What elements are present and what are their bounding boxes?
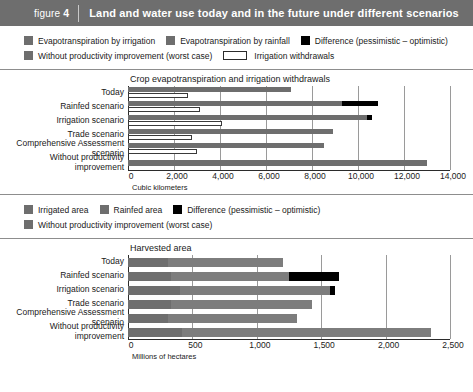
gridline [358,86,359,170]
gridline [192,255,193,339]
bar-segment-withdrawals [128,149,197,154]
plot-wrap-2: TodayRainfed scenarioIrrigation scenario… [0,255,473,339]
bar-segment-difference [342,101,378,107]
legend-swatch-gray-icon [24,51,33,60]
legend-swatch-gray-icon [24,36,33,45]
legend-top-row-2: Without productivity improvement (worst … [24,48,473,63]
x-tick-label: 2,500 [442,340,463,350]
x-tick-label: 2,000 [166,171,187,181]
bar-segment-irrigated [128,314,168,323]
bar-segment-irrigated [128,328,182,337]
x-tick-label: 6,000 [258,171,279,181]
legend-label: Without productivity improvement (worst … [38,51,212,61]
category-label: Irrigation scenario [56,116,124,126]
legend-item-evapotranspiration-irrigation: Evapotranspiration by irrigation [24,36,155,46]
legend-bottom-row-1: Irrigated area Rainfed area Difference (… [24,202,473,217]
x-tick-label: 14,000 [440,171,466,181]
figure-word: figure [34,8,60,19]
bar-segment-irrigated [128,258,168,267]
bar-segment-difference [330,286,335,295]
legend-swatch-hollow-icon [223,51,247,60]
x-tick-label: 1,500 [314,340,335,350]
gridline [386,255,387,339]
legend-label: Difference (pessimistic – optimistic) [315,36,448,46]
legend-swatch-black-icon [301,36,310,45]
gridline [257,255,258,339]
figure-title: Land and water use today and in the futu… [89,7,459,19]
legend-label: Irrigation withdrawals [254,51,334,61]
chart-panel-harvested-area: Harvested area TodayRainfed scenarioIrri… [0,239,473,363]
bar-segment-withdrawals [128,135,192,140]
bar-segment-irrigated [128,286,180,295]
legend-swatch-gray-icon [24,220,33,229]
bar-segment-main [128,115,367,121]
legend-label: Difference (pessimistic – optimistic) [187,205,320,215]
bar-segment-withdrawals [128,107,200,112]
legend-bottom: Irrigated area Rainfed area Difference (… [0,195,473,239]
gridline [128,255,129,339]
category-label: Today [101,88,124,98]
legend-top-row-1: Evapotranspiration by irrigation Evapotr… [24,33,473,48]
legend-item-difference: Difference (pessimistic – optimistic) [173,205,320,215]
bar-segment-main [128,129,333,135]
bar-segment-withdrawals [128,93,188,98]
header-divider [78,5,79,22]
bar-segment-main [128,101,342,107]
legend-item-irrigated-area: Irrigated area [24,205,89,215]
category-axis-2: TodayRainfed scenarioIrrigation scenario… [0,255,128,339]
bar-segment-rainfed [180,286,331,295]
bar-segment-irrigated [128,272,171,281]
bar-segment-difference [289,272,339,281]
legend-top: Evapotranspiration by irrigation Evapotr… [0,26,473,70]
figure-number: 4 [63,7,69,19]
plot-area-1 [128,86,473,170]
bar-segment-rainfed [182,328,431,337]
legend-item-irrigation-withdrawals: Irrigation withdrawals [223,51,334,61]
x-tick-label: 1,000 [249,340,270,350]
legend-item-without-productivity: Without productivity improvement (worst … [24,51,212,61]
chart-title-2: Harvested area [0,239,473,255]
legend-label: Without productivity improvement (worst … [38,220,212,230]
gridline [321,255,322,339]
category-label: Irrigation scenario [56,285,124,295]
legend-swatch-gray-icon [24,205,33,214]
bar-segment-irrigated [128,300,171,309]
x-axis-title-1: Cubic kilometers [132,183,187,192]
legend-label: Rainfed area [114,205,163,215]
bar-segment-main [128,87,291,93]
plot-wrap-1: TodayRainfed scenarioIrrigation scenario… [0,86,473,170]
bar-segment-rainfed [171,272,289,281]
x-tick-label: 500 [188,340,202,350]
x-tick-label: 2,000 [378,340,399,350]
legend-bottom-row-2: Without productivity improvement (worst … [24,217,473,232]
bar-segment-difference [367,115,372,121]
legend-label: Irrigated area [38,205,89,215]
gridline [450,86,451,170]
category-label: Rainfed scenario [60,102,124,112]
chart-panel-evapotranspiration: Crop evapotranspiration and irrigation w… [0,70,473,195]
figure-caption-label: figure 4 [0,7,69,19]
bar-segment-rainfed [171,300,313,309]
axis-footer-2: 05001,0001,5002,0002,500 Millions of hec… [0,339,473,363]
bar-segment-rainfed [168,258,283,267]
x-tick-label: 8,000 [304,171,325,181]
bar-segment-rainfed [168,314,297,323]
legend-swatch-gray-icon [166,36,175,45]
bar-segment-main [128,160,427,166]
legend-item-difference: Difference (pessimistic – optimistic) [301,36,448,46]
legend-swatch-gray-icon [100,205,109,214]
category-axis-1: TodayRainfed scenarioIrrigation scenario… [0,86,128,170]
legend-label: Evapotranspiration by irrigation [38,36,155,46]
category-label: Rainfed scenario [60,271,124,281]
x-tick-label: 12,000 [394,171,420,181]
bar-segment-withdrawals [128,121,222,126]
gridline [450,255,451,339]
legend-item-without-productivity: Without productivity improvement (worst … [24,220,212,230]
legend-item-evapotranspiration-rainfall: Evapotranspiration by rainfall [166,36,290,46]
x-tick-label: 4,000 [212,171,233,181]
x-tick-label: 10,000 [348,171,374,181]
plot-area-2 [128,255,473,339]
x-axis-title-2: Millions of hectares [132,352,196,361]
x-tick-label: 0 [129,340,134,350]
legend-item-rainfed-area: Rainfed area [100,205,163,215]
